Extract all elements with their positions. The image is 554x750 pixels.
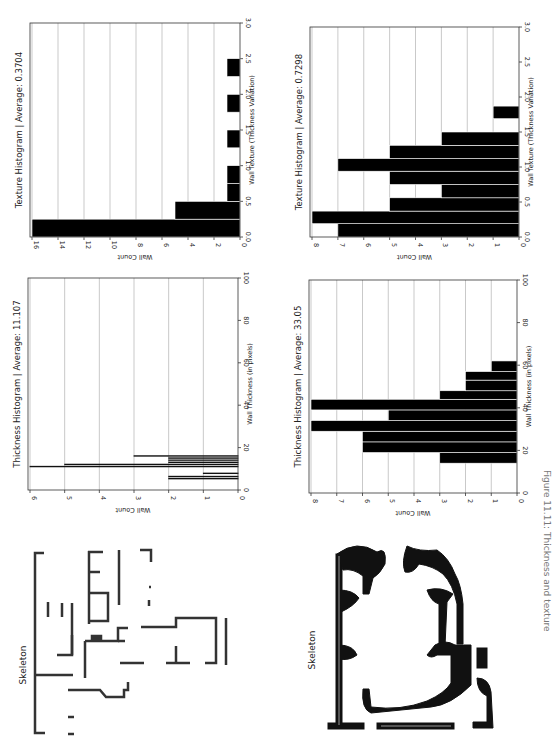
histogram-bar [390,171,519,184]
histogram-bar [169,458,238,459]
histogram-bar [227,59,240,77]
value-tick-label: 5 [390,243,398,247]
category-tick-label: 0.0 [523,232,531,242]
chart-title: Texture Histogram | Average: 0.3704 [14,52,24,209]
histogram-bar [169,476,238,477]
value-tick-label: 1 [491,499,499,503]
histogram-bar [227,94,240,112]
value-tick-label: 3 [134,496,142,500]
skeleton-floorplan-2: Skeleton [277,520,554,750]
histogram-bar [491,361,517,372]
histogram-bar [466,372,518,381]
histogram-bar [440,453,517,464]
histogram-bar [312,211,519,224]
histogram-bar [32,219,240,237]
histogram-bar [363,431,518,442]
value-tick-label: 6 [162,243,170,247]
value-tick-label: 5 [388,499,396,503]
skeleton-walls [35,550,226,734]
category-axis-label: Wall Thickness (in pixels) [246,343,254,425]
value-tick-label: 10 [110,241,118,249]
value-axis-label: Wall Count [395,509,430,517]
histogram-bar [390,145,519,158]
value-axis-label: Wall Count [397,253,432,260]
value-tick-label: 3 [440,499,448,503]
skeleton-floorplan-1: Skeleton [0,520,277,750]
histogram-bar [493,106,519,119]
skeleton-label: Skeleton [307,631,317,670]
value-tick-label: 7 [338,243,346,247]
category-tick-label: 100 [521,274,529,286]
category-tick-label: 0.5 [523,197,531,207]
histogram-bar [203,473,238,474]
value-tick-label: 14 [58,241,66,249]
chart-title: Thickness Histogram | Average: 11.107 [12,300,22,468]
category-tick-label: 20 [242,443,250,451]
value-tick-label: 12 [84,241,92,249]
category-tick-label: 0.5 [244,196,252,206]
value-tick-label: 16 [32,241,40,249]
value-tick-label: 4 [188,243,196,247]
histogram-bar [227,166,240,184]
histogram-bar [466,380,518,391]
histogram-bar [338,159,519,172]
figure-caption: Figure 11.11: Thickness and texture [540,470,552,740]
skeleton-walls [328,546,493,729]
value-tick-label: 4 [416,243,424,247]
value-tick-label: 6 [30,496,38,500]
value-tick-label: 1 [203,496,211,500]
category-tick-label: 80 [521,318,529,326]
chart-title: Thickness Histogram | Average: 33.05 [293,306,303,469]
value-tick-label: 0 [240,243,248,247]
texture-histogram-2: 0123456780.00.51.01.52.02.53.0Texture Hi… [277,0,554,260]
histogram-bar [441,185,519,198]
category-axis-label: Wall Thickness (in pixels) [525,346,533,428]
value-tick-label: 1 [493,243,501,247]
category-tick-label: 20 [521,446,529,454]
category-tick-label: 2.5 [244,53,252,63]
histogram-bar [227,184,240,202]
value-axis-label: Wall Count [115,506,150,514]
histogram-bar [65,464,238,465]
category-tick-label: 0.0 [244,232,252,242]
histogram-bar [175,201,240,219]
histogram-bar [338,224,519,237]
category-tick-label: 100 [242,272,250,284]
category-axis-label: Wall Texture (Thickness Variation) [248,75,256,185]
value-tick-label: 3 [441,243,449,247]
value-tick-label: 4 [414,499,422,503]
value-tick-label: 8 [312,243,320,247]
histogram-bar [227,130,240,148]
skeleton-label: Skeleton [18,646,28,685]
value-tick-label: 2 [466,499,474,503]
value-tick-label: 0 [517,499,525,503]
histogram-bar [169,460,238,461]
histogram-bar [440,391,517,400]
value-tick-label: 2 [214,243,222,247]
histogram-bar [390,198,519,211]
value-tick-label: 0 [238,496,246,500]
figure-caption-text: Figure 11.11: Thickness and texture [542,470,552,632]
value-axis-label: Wall Count [117,253,152,260]
category-tick-label: 0 [521,491,529,495]
value-tick-label: 7 [337,499,345,503]
category-tick-label: 80 [242,316,250,324]
category-axis-label: Wall Texture (Thickness Variation) [527,77,535,187]
histogram-bar [388,410,517,421]
texture-histogram-1: 02468101214160.00.51.01.52.02.53.0Textur… [0,0,277,260]
histogram-bar [169,478,238,479]
value-tick-label: 6 [364,243,372,247]
histogram-bar [311,399,517,410]
histogram-bar [169,462,238,463]
value-tick-label: 8 [136,243,144,247]
histogram-bar [441,132,519,145]
value-tick-label: 4 [99,496,107,500]
value-tick-label: 8 [311,499,319,503]
category-tick-label: 0 [242,488,250,492]
category-tick-label: 3.0 [523,22,531,32]
histogram-bar [363,442,518,453]
value-tick-label: 6 [363,499,371,503]
chart-title: Texture Histogram | Average: 0.7298 [294,54,304,211]
histogram-bar [30,466,238,467]
category-tick-label: 2.5 [523,57,531,67]
